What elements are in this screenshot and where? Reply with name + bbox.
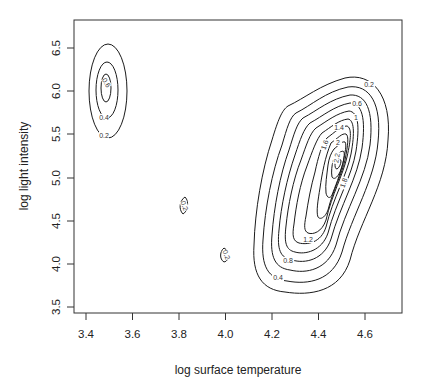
y-tick-label: 5.5 <box>50 126 62 142</box>
contour-label: 0.2 <box>222 249 232 261</box>
contour-label: 0.2 <box>99 132 109 139</box>
x-tick-label: 4.4 <box>311 328 328 340</box>
contour-chart: 3.4 3.6 3.8 4.0 4.2 4.4 4.6 log surface … <box>0 0 425 382</box>
contour-lines <box>89 44 389 293</box>
x-tick-label: 3.8 <box>171 328 187 340</box>
x-axis-label: log surface temperature <box>175 363 302 377</box>
contour-label: 1.4 <box>334 124 344 131</box>
contour-group-main <box>254 77 389 293</box>
contour-label: 2.2 <box>332 152 341 163</box>
y-tick-label: 4.5 <box>50 213 62 229</box>
contour-label: 0.4 <box>99 114 109 121</box>
contour-label: 0.2 <box>364 81 374 88</box>
x-tick-label: 3.4 <box>78 328 95 340</box>
y-tick-label: 6.5 <box>50 40 62 56</box>
y-axis <box>67 48 74 307</box>
x-tick-label: 3.6 <box>125 328 141 340</box>
y-axis-label: log light intensity <box>17 122 31 211</box>
contour-label: 0.4 <box>273 274 283 281</box>
x-axis <box>86 313 365 320</box>
contour-label: 1 <box>354 114 358 121</box>
y-tick-label: 5.0 <box>50 170 62 186</box>
y-tick-label: 4.0 <box>50 256 62 272</box>
x-tick-label: 4.2 <box>264 328 280 340</box>
contour-label: 0.8 <box>283 257 293 264</box>
y-tick-label: 6.0 <box>50 83 62 99</box>
contour-group-giants <box>89 44 127 138</box>
x-tick-label: 4.6 <box>357 328 373 340</box>
contour-label: 0.6 <box>101 77 112 89</box>
contour-label: 1.2 <box>303 236 313 243</box>
contour-label: 2 <box>336 139 340 146</box>
y-tick-label: 3.5 <box>50 299 62 315</box>
x-tick-label: 4.0 <box>218 328 234 340</box>
contour-label: 0.6 <box>352 100 362 107</box>
